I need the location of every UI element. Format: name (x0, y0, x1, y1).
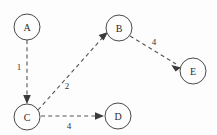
edge-a-c-arrowhead (23, 95, 31, 104)
edge-weight-c-b: 2 (65, 81, 70, 91)
edge-weight-c-d: 4 (67, 121, 72, 131)
graph-canvas: 1 2 4 4 A B C D (0, 0, 217, 135)
node-a[interactable]: A (14, 14, 40, 40)
edge-c-b-line (38, 36, 104, 110)
node-c[interactable]: C (14, 104, 40, 130)
graph-svg: 1 2 4 4 A B C D (0, 0, 217, 135)
edge-weight-a-c: 1 (17, 62, 22, 72)
edge-a-c[interactable] (23, 40, 31, 104)
node-d[interactable]: D (105, 103, 131, 129)
node-d-label: D (114, 111, 121, 122)
node-e-label: E (190, 66, 196, 77)
node-group: A B C D E (14, 14, 206, 130)
node-e[interactable]: E (180, 58, 206, 84)
edge-c-d[interactable] (41, 112, 104, 120)
edge-c-b[interactable] (38, 32, 108, 110)
edge-c-d-arrowhead (95, 112, 104, 120)
edge-weight-b-e: 4 (152, 37, 157, 47)
node-b-label: B (116, 23, 123, 34)
node-a-label: A (23, 22, 31, 33)
node-b[interactable]: B (106, 15, 132, 41)
node-c-label: C (24, 112, 31, 123)
edge-group (23, 32, 181, 120)
